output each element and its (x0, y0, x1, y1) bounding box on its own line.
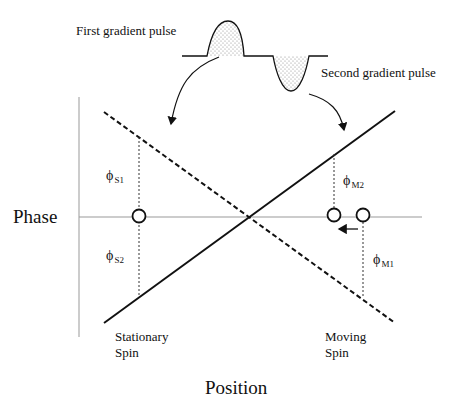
phi-subscript: M1 (381, 259, 394, 269)
phi-subscript: S2 (114, 255, 124, 265)
second-pulse-fill (273, 56, 309, 91)
phi-symbol: ϕ (106, 248, 113, 263)
phi-subscript: M2 (351, 180, 364, 190)
phase-diagram (0, 0, 469, 397)
first-pulse-label: First gradient pulse (76, 24, 176, 37)
stationary-spin-marker (133, 210, 146, 223)
first-pulse-fill (207, 21, 244, 56)
stationary-spin-label-line1: Stationary (115, 330, 168, 343)
phi-m2-label: ϕM2 (343, 174, 364, 190)
moving-spin-label-line2: Spin (325, 346, 349, 359)
moving-spin-marker-initial (357, 209, 370, 222)
second-pulse-label: Second gradient pulse (321, 66, 436, 79)
arrow-second-pulse-to-solid-line (309, 94, 344, 130)
stationary-spin-label-line2: Spin (115, 346, 139, 359)
phi-symbol: ϕ (373, 252, 380, 267)
arrow-first-pulse-to-dashed-line (171, 57, 219, 124)
phi-symbol: ϕ (343, 173, 350, 188)
moving-spin-label-line1: Moving (325, 330, 366, 343)
phi-symbol: ϕ (106, 168, 113, 183)
moving-spin-marker-final (328, 209, 341, 222)
phi-m1-label: ϕM1 (373, 253, 394, 269)
gradient-waveform (182, 21, 328, 91)
phi-s2-label: ϕS2 (106, 249, 124, 265)
phi-subscript: S1 (114, 175, 124, 185)
x-axis-label: Position (205, 378, 267, 397)
y-axis-label: Phase (13, 207, 57, 226)
phi-s1-label: ϕS1 (106, 169, 124, 185)
